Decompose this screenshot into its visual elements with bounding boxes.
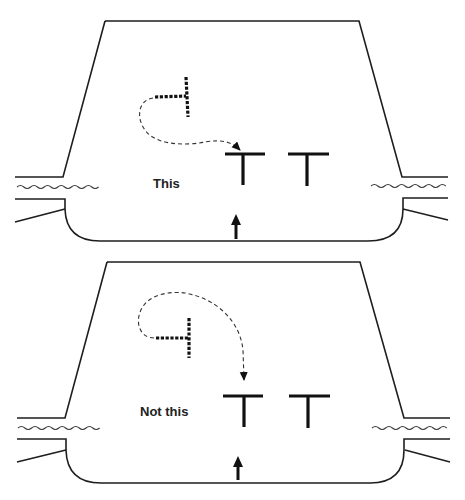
solid-t-left [225,154,265,185]
up-arrow-icon [231,214,241,239]
solid-t-right [289,396,330,428]
vessel-outline [15,21,448,241]
label-not-this: Not this [140,404,188,419]
diagram-canvas: This Not this [0,0,465,500]
solid-t-right [288,154,329,186]
panel-correct: This [15,21,448,241]
right-wave-line [371,185,446,188]
right-pipe-diagonal [405,450,450,462]
right-wave-line [372,427,447,430]
left-pipe-diagonal [15,209,65,222]
label-this: This [153,176,180,191]
motion-path-arrow [140,98,240,150]
dotted-t-origin [155,77,188,117]
dotted-t-origin [156,318,189,358]
left-wave-line [17,186,99,189]
motion-path-arrow [138,292,244,380]
left-pipe-diagonal [17,450,66,462]
solid-t-left [223,396,263,427]
right-pipe-diagonal [403,209,448,220]
panel-incorrect: Not this [17,262,450,483]
up-arrow-icon [233,456,243,480]
vessel-outline [17,262,450,483]
left-wave-line [18,427,100,430]
